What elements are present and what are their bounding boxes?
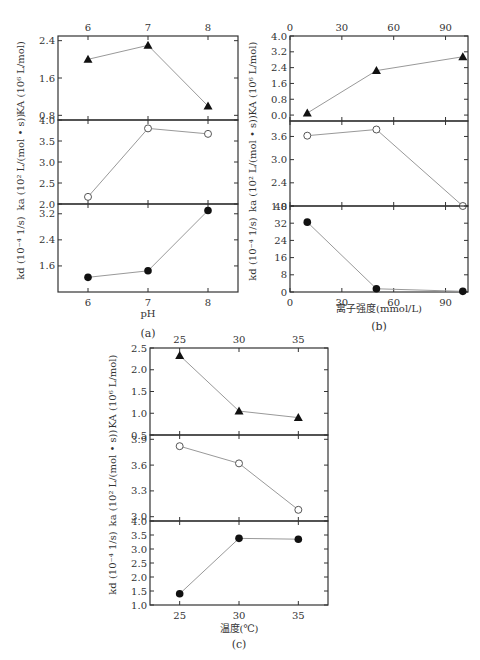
chart-b: 0.00.81.62.43.24.0KA (10⁶ L/mol)1.82.43.… (247, 22, 468, 333)
y-tick-label: 2.4 (271, 177, 287, 188)
x-tick-label: 30 (233, 610, 246, 621)
open-circle-marker (295, 506, 302, 513)
panel-c-2: 1.01.52.02.53.03.54.0kd (10⁻⁴ 1/s) (107, 516, 328, 611)
panel-c-0: 0.51.01.52.02.5KA (10⁶ L/mol) (107, 343, 328, 441)
subfigure-caption: (c) (232, 638, 247, 651)
x-tick-label: 7 (145, 297, 151, 308)
x-tick-label-top: 30 (335, 22, 348, 33)
open-circle-marker (373, 126, 380, 133)
x-tick-label: 25 (173, 610, 186, 621)
plot-frame (290, 36, 468, 121)
filled-circle-marker (459, 288, 467, 296)
x-axis-title: pH (140, 308, 155, 319)
x-tick-label: 90 (439, 297, 452, 308)
x-tick-label-top: 8 (205, 22, 211, 33)
open-circle-marker (145, 125, 152, 132)
figure-canvas: 0.81.62.4KA (10⁶ L/mol)2.02.53.03.54.0ka… (0, 0, 480, 660)
y-tick-label: 2.5 (131, 558, 147, 569)
y-tick-label: 2.4 (271, 62, 287, 73)
y-tick-label: 4.0 (131, 516, 147, 527)
y-tick-label: 2.0 (131, 364, 147, 375)
y-tick-label: 2.0 (131, 572, 147, 583)
y-axis-title: kd (10⁻⁴ 1/s) (247, 217, 258, 281)
y-tick-label: 0.8 (271, 94, 287, 105)
y-axis-title: KA (10⁶ L/mol) (15, 41, 26, 115)
x-tick-label-top: 7 (145, 22, 151, 33)
x-tick-label-top: 6 (85, 22, 91, 33)
y-tick-label: 1.6 (39, 73, 55, 84)
plot-frame (290, 206, 468, 292)
triangle-marker (458, 52, 467, 60)
panel-c-1: 3.03.33.63.9ka (10² L/(mol • s)) (107, 429, 328, 526)
series-line (180, 446, 299, 510)
y-axis-title: ka (10² L/(mol • s)) (247, 115, 258, 212)
y-tick-label: 8 (281, 269, 287, 280)
x-tick-label-top: 30 (233, 334, 246, 345)
y-tick-label: 1.6 (271, 78, 287, 89)
chart-a: 0.81.62.4KA (10⁶ L/mol)2.02.53.03.54.0ka… (15, 22, 238, 340)
y-tick-label: 1.5 (131, 386, 147, 397)
filled-circle-marker (144, 267, 152, 275)
y-tick-label: 2.5 (39, 178, 55, 189)
open-circle-marker (304, 132, 311, 139)
triangle-marker (175, 351, 184, 359)
open-circle-marker (205, 130, 212, 137)
series-line (307, 130, 463, 207)
y-tick-label: 4.0 (271, 31, 287, 42)
y-tick-label: 2.4 (39, 234, 55, 245)
y-axis-title: kd (10⁻⁴ 1/s) (107, 531, 118, 595)
x-tick-label: 6 (85, 297, 91, 308)
panel-b-0: 0.00.81.62.43.24.0KA (10⁶ L/mol) (247, 31, 468, 122)
filled-circle-marker (373, 285, 381, 293)
panel-a-0: 0.81.62.4KA (10⁶ L/mol) (15, 35, 238, 121)
filled-circle-marker (303, 218, 311, 226)
y-tick-label: 4.0 (39, 115, 55, 126)
x-tick-label-top: 0 (287, 22, 293, 33)
x-axis-title: 离子强度(mmol/L) (336, 302, 422, 314)
filled-circle-marker (84, 274, 92, 282)
panel-b-2: 0816243240kd (10⁻⁴ 1/s) (247, 201, 468, 298)
x-tick-label-top: 35 (292, 334, 305, 345)
y-tick-label: 1.0 (131, 600, 147, 611)
subfigure-caption: (a) (140, 327, 155, 340)
y-tick-label: 32 (274, 218, 287, 229)
x-tick-label-top: 90 (439, 22, 452, 33)
y-tick-label: 3.2 (39, 208, 55, 219)
y-tick-label: 2.4 (39, 35, 55, 46)
y-tick-label: 1.0 (131, 408, 147, 419)
triangle-marker (144, 41, 153, 49)
open-circle-marker (176, 443, 183, 450)
y-tick-label: 0 (281, 287, 287, 298)
open-circle-marker (236, 460, 243, 467)
x-tick-label: 35 (292, 610, 305, 621)
y-axis-title: ka (10² L/(mol • s)) (15, 113, 26, 210)
x-tick-label: 0 (287, 297, 293, 308)
filled-circle-marker (204, 207, 212, 215)
y-tick-label: 0.0 (271, 110, 287, 121)
y-axis-title: kd (10⁻⁴ 1/s) (15, 216, 26, 280)
y-tick-label: 1.6 (39, 260, 55, 271)
plot-frame (150, 348, 328, 435)
series-line (307, 57, 463, 113)
y-tick-label: 3.3 (131, 485, 147, 496)
x-tick-label-top: 60 (387, 22, 400, 33)
x-axis-title: 温度(℃) (220, 622, 259, 634)
y-tick-label: 3.5 (39, 136, 55, 147)
y-axis-title: ka (10² L/(mol • s)) (107, 429, 118, 526)
series-line (88, 45, 208, 106)
y-tick-label: 24 (274, 235, 287, 246)
series-line (180, 538, 299, 593)
y-tick-label: 3.0 (39, 157, 55, 168)
y-tick-label: 3.2 (271, 46, 287, 57)
series-line (307, 222, 463, 291)
subfigure-caption: (b) (371, 320, 387, 333)
y-tick-label: 3.5 (131, 530, 147, 541)
y-tick-label: 3.0 (271, 154, 287, 165)
y-tick-label: 1.5 (131, 586, 147, 597)
y-tick-label: 2.5 (131, 343, 147, 354)
y-axis-title: KA (10⁶ L/mol) (247, 41, 258, 115)
chart-c: 0.51.01.52.02.5KA (10⁶ L/mol)3.03.33.63.… (107, 334, 328, 651)
y-tick-label: 16 (274, 252, 287, 263)
y-tick-label: 3.0 (131, 544, 147, 555)
y-tick-label: 40 (274, 201, 287, 212)
